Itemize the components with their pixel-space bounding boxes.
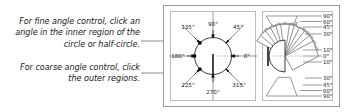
circle-label-225: 225° [181,82,195,88]
circle-label-270: 270° [206,89,220,95]
circle-label-135: 135° [181,24,195,30]
circle-label-315: 315° [232,82,246,88]
half-label-2: 45° [323,24,333,30]
half-label-3: 30° [323,31,333,37]
half-label-10: 90° [323,93,333,99]
circle-label-90: 90° [208,21,218,27]
half-label-6: 10° [323,59,333,65]
circle-label-180: 180° [171,53,185,59]
angle-control-help-figure: For fine angle control, click an angle i… [0,0,344,112]
half-label-7: 30° [323,75,333,81]
circle-label-45: 45° [233,24,243,30]
circle-label-0: 0° [244,53,251,59]
full-circle-dial[interactable]: 90° 135° 45° 180° 0° 225° 315° 270° [169,12,257,101]
figure-line-art: 90° 135° 45° 180° 0° 225° 315° 270° [0,0,344,112]
